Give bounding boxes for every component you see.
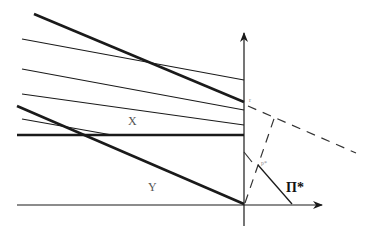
label-r: r [249,97,251,103]
label-p-star: p* [261,160,267,166]
dashed-line-short [244,152,252,162]
label-x: X [128,114,137,128]
label-pi-star: Π* [286,180,304,195]
thin-line-1 [22,39,244,80]
thin-line-2 [22,69,244,110]
dashed-line-r [248,106,356,153]
economics-diagram: X Y Π* p* r [0,0,368,235]
label-y: Y [148,180,157,194]
dashed-line-steep [245,113,276,203]
thick-line-upper [34,14,244,102]
